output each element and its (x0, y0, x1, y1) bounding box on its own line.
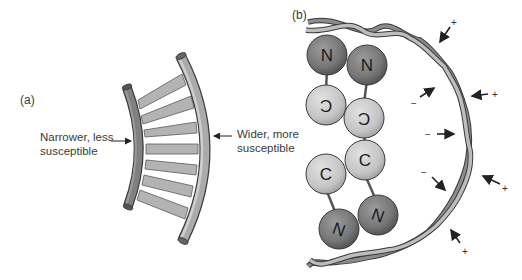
narrow-side-annotation: Narrower, less susceptible (40, 131, 114, 158)
nitrogen-atom: N (358, 195, 398, 235)
carbon-atom: C (306, 154, 346, 194)
panel-a-label: (a) (20, 93, 35, 107)
carbon-atom: C (345, 140, 385, 180)
base-pair-rungs (137, 74, 198, 219)
nitrogen-atom: N (307, 35, 347, 75)
svg-text:−: − (411, 98, 417, 109)
carbon-atom: C (344, 98, 384, 138)
svg-text:N: N (321, 46, 333, 65)
svg-text:N: N (361, 56, 373, 75)
svg-text:C: C (320, 165, 332, 184)
svg-text:C: C (320, 96, 332, 115)
nitrogen-atom: N (347, 45, 387, 85)
svg-text:+: + (502, 183, 508, 194)
atoms-layer: NNCCCCNN (306, 35, 398, 249)
wide-side-annotation: Wider, more susceptible (237, 128, 299, 155)
svg-text:−: − (421, 167, 427, 178)
svg-text:+: + (492, 89, 498, 100)
svg-text:+: + (451, 17, 457, 28)
carbon-atom: C (306, 85, 346, 125)
panel-b-diagram: NNCCCCNN + − + − − + + (306, 17, 508, 267)
panel-a-diagram (111, 51, 232, 246)
charge-signs: + − + − − + + (411, 17, 508, 257)
panel-b-label: (b) (292, 8, 307, 22)
svg-text:C: C (358, 109, 370, 128)
svg-text:C: C (359, 151, 371, 170)
svg-text:+: + (462, 246, 468, 257)
svg-text:−: − (425, 129, 431, 140)
force-arrows (420, 27, 500, 243)
nitrogen-atom: N (319, 209, 359, 249)
